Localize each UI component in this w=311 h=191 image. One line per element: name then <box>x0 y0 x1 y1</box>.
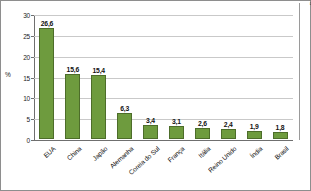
y-tick: 30 <box>34 15 35 16</box>
category-label: China <box>65 145 82 161</box>
bar-value-label: 6,3 <box>120 105 129 112</box>
y-tick-mark <box>31 36 34 37</box>
y-tick-label: 10 <box>23 95 30 102</box>
bar-slot: 3,4 <box>143 15 158 140</box>
y-tick-label: 25 <box>23 32 30 39</box>
bar-slot: 26,6 <box>39 15 54 140</box>
bar-value-label: 15,6 <box>67 66 79 73</box>
bar-slot: 6,3 <box>117 15 132 140</box>
y-tick-mark <box>31 15 34 16</box>
bar <box>247 131 262 139</box>
plot-area: 051015202530 26,615,615,46,33,43,12,62,4… <box>34 15 293 140</box>
x-axis-line <box>34 140 293 141</box>
y-tick: 15 <box>34 78 35 79</box>
bar <box>195 128 210 139</box>
y-tick: 25 <box>34 36 35 37</box>
y-tick: 10 <box>34 98 35 99</box>
category-label: Índia <box>249 145 264 159</box>
chart-figure: % 051015202530 26,615,615,46,33,43,12,62… <box>0 0 311 191</box>
category-label: Japão <box>91 145 109 162</box>
y-tick-mark <box>31 78 34 79</box>
y-tick-label: 15 <box>23 74 30 81</box>
bar-value-label: 1,8 <box>276 124 285 131</box>
bar-value-label: 3,1 <box>172 118 181 125</box>
bar <box>65 74 80 139</box>
category-label: Itália <box>197 145 212 159</box>
y-tick: 0 <box>34 140 35 141</box>
category-label: França <box>167 145 186 164</box>
y-tick: 20 <box>34 57 35 58</box>
bar <box>221 129 236 139</box>
category-label: Alemanha <box>108 145 134 170</box>
bar <box>273 132 288 140</box>
y-tick-mark <box>31 98 34 99</box>
y-tick: 5 <box>34 119 35 120</box>
y-tick-label: 5 <box>27 116 30 123</box>
y-tick-label: 30 <box>23 12 30 19</box>
bar <box>143 125 158 139</box>
bar-value-label: 3,4 <box>146 117 155 124</box>
credit-divider <box>299 3 300 140</box>
bar <box>39 28 54 139</box>
bar-slot: 15,6 <box>65 15 80 140</box>
y-tick-label: 20 <box>23 53 30 60</box>
bar <box>169 126 184 139</box>
bar-value-label: 15,4 <box>93 67 105 74</box>
bar-value-label: 26,6 <box>41 20 53 27</box>
bar-value-label: 2,4 <box>224 121 233 128</box>
bar-slot: 1,9 <box>247 15 262 140</box>
bar-slot: 2,4 <box>221 15 236 140</box>
category-label: Brasil <box>273 145 289 161</box>
category-label: EUA <box>42 145 57 159</box>
y-tick-mark <box>31 140 34 141</box>
bar <box>91 75 106 139</box>
y-tick-mark <box>31 57 34 58</box>
bar-slot: 15,4 <box>91 15 106 140</box>
bar-slot: 1,8 <box>273 15 288 140</box>
bar-value-label: 2,6 <box>198 120 207 127</box>
bar-slot: 3,1 <box>169 15 184 140</box>
y-axis-label: % <box>5 71 11 78</box>
credit-text: Almaps/Arquivo da editora <box>309 0 311 5</box>
bar <box>117 113 132 139</box>
y-tick-mark <box>31 119 34 120</box>
bar-slot: 2,6 <box>195 15 210 140</box>
bar-value-label: 1,9 <box>250 123 259 130</box>
y-tick-label: 0 <box>27 137 30 144</box>
